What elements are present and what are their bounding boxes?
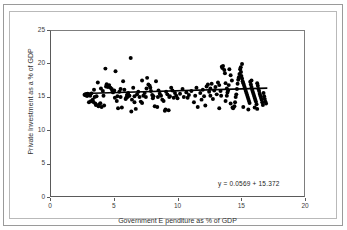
x-tick-mark (305, 198, 306, 201)
chart-frame: Private Investment as a % of GDP Governm… (9, 11, 337, 219)
x-tick-mark (114, 198, 115, 201)
chart-page: Private Investment as a % of GDP Governm… (0, 0, 347, 230)
x-tick-mark (50, 198, 51, 201)
x-tick-mark (241, 198, 242, 201)
y-tick-label: 0 (29, 194, 45, 201)
x-axis-title: Government E penditure as % of GDP (50, 217, 305, 224)
x-tick-label: 10 (169, 203, 187, 210)
y-tick-label: 10 (29, 127, 45, 134)
y-tick-label: 20 (29, 60, 45, 67)
x-tick-label: 15 (232, 203, 250, 210)
x-tick-mark (178, 198, 179, 201)
regression-equation-label: y = 0.0569 + 15.372 (218, 180, 280, 187)
y-tick-label: 15 (29, 93, 45, 100)
y-tick-label: 5 (29, 160, 45, 167)
x-tick-label: 20 (296, 203, 314, 210)
y-axis-title: Private Investment as a % of GDP (27, 27, 34, 177)
plot-area (50, 30, 305, 197)
trendline-layer (51, 31, 304, 196)
x-tick-label: 5 (105, 203, 123, 210)
y-tick-label: 25 (29, 27, 45, 34)
trendline (84, 88, 267, 93)
x-tick-label: 0 (41, 203, 59, 210)
